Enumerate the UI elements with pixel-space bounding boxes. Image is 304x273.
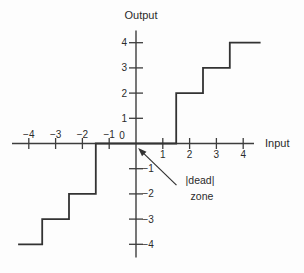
dead-zone-label-line1: |dead| [186, 174, 215, 186]
y-tick-label: 3 [121, 62, 127, 73]
x-tick-label: −4 [23, 129, 35, 140]
y-tick-label: 2 [121, 88, 127, 99]
y-tick-label: −1 [143, 163, 155, 174]
x-tick-label: −1 [103, 129, 115, 140]
y-tick-label: −2 [143, 188, 155, 199]
y-tick-label: 4 [121, 37, 127, 48]
x-tick-label: 1 [160, 149, 166, 160]
x-axis-title: Input [265, 137, 289, 149]
y-tick-label: −4 [143, 239, 155, 250]
x-tick-label: −2 [77, 129, 89, 140]
chart-canvas: −4−3−2−101234 −4−3−2−11234 Output Input … [0, 0, 304, 273]
x-tick-label-0: 0 [119, 130, 125, 141]
x-tick-label: 2 [187, 149, 193, 160]
x-tick-label: −3 [50, 129, 62, 140]
y-tick-label: 1 [121, 113, 127, 124]
quantizer-dead-zone-chart: −4−3−2−101234 −4−3−2−11234 Output Input … [0, 0, 304, 273]
y-tick-label: −3 [143, 214, 155, 225]
y-axis-title: Output [124, 9, 157, 21]
x-tick-label: 3 [214, 149, 220, 160]
dead-zone-label-line2: zone [191, 190, 214, 202]
x-tick-label: 4 [240, 149, 246, 160]
